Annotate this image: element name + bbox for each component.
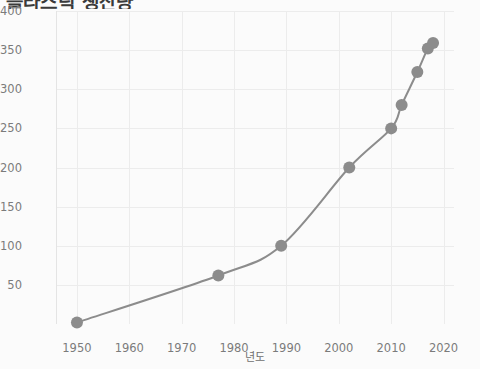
data-point-marker bbox=[385, 122, 397, 134]
y-tick-label: 400 bbox=[0, 4, 22, 18]
data-point-marker bbox=[71, 316, 83, 328]
data-point-marker bbox=[396, 99, 408, 111]
data-point-marker bbox=[343, 162, 355, 174]
data-point-marker bbox=[212, 269, 224, 281]
y-tick-label: 50 bbox=[0, 278, 22, 292]
data-point-marker bbox=[275, 240, 287, 252]
x-axis-label: 년도 bbox=[56, 348, 454, 364]
data-series-line bbox=[56, 11, 454, 324]
chart-title: 플라스틱 생산량 bbox=[6, 0, 133, 9]
plot-area: 50100150200250300350400 1950196019701980… bbox=[56, 11, 454, 324]
chart-figure: 플라스틱 생산량 플라스틱 생산량(톤 단위) 5010015020025030… bbox=[0, 0, 480, 369]
y-tick-label: 350 bbox=[0, 43, 22, 57]
y-tick-label: 300 bbox=[0, 82, 22, 96]
data-point-marker bbox=[427, 37, 439, 49]
y-tick-label: 100 bbox=[0, 239, 22, 253]
y-tick-label: 150 bbox=[0, 200, 22, 214]
chart-title-clipped-strip: 플라스틱 생산량 bbox=[0, 0, 480, 9]
data-point-marker bbox=[411, 66, 423, 78]
series-line-path bbox=[77, 43, 433, 322]
y-tick-label: 250 bbox=[0, 121, 22, 135]
y-tick-label: 200 bbox=[0, 161, 22, 175]
